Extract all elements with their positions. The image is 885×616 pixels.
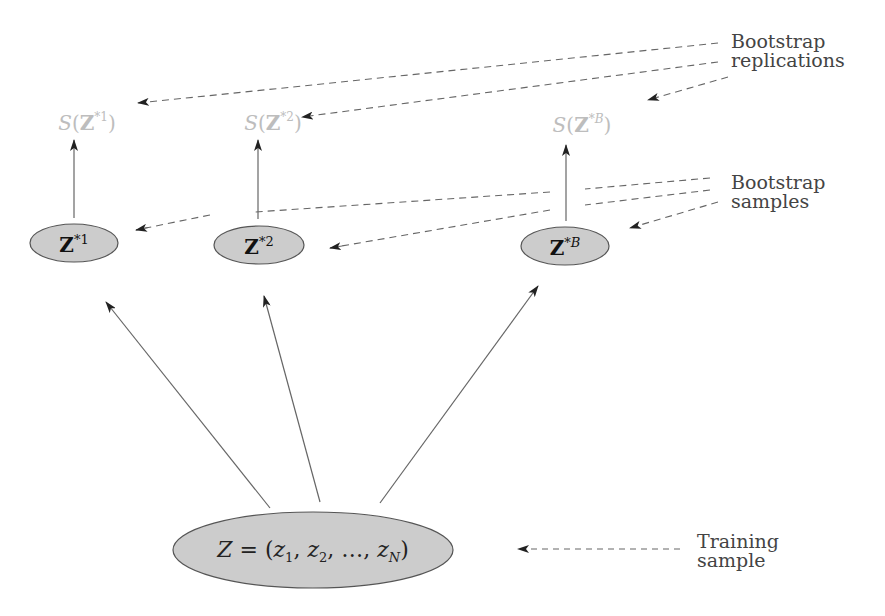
sample-label-B: Z*B	[550, 235, 581, 260]
dashed-sample-2-head	[330, 246, 342, 248]
statistic-2: S(Z*2)	[244, 110, 302, 135]
arrow-train-to-sample-1	[106, 302, 270, 508]
dashed-sample-1	[136, 178, 710, 230]
stat-index: B	[595, 112, 604, 126]
training-lhs: Z	[217, 537, 232, 562]
sample-index: 2	[265, 234, 273, 249]
stat-var: Z	[266, 111, 281, 135]
training-comma: ,	[327, 537, 341, 562]
dashed-sample-1-head	[136, 228, 148, 231]
label-line: sample	[697, 551, 779, 570]
dashed-replication-2	[302, 62, 718, 117]
sample-var: Z	[59, 233, 74, 257]
dashed-sample-2	[330, 190, 710, 248]
training-subN: N	[389, 550, 400, 565]
stat-superscript: *2	[280, 110, 294, 124]
label-training-sample: Training sample	[697, 532, 779, 570]
sample-index: 1	[80, 232, 88, 247]
training-sample-formula: Z = (z1, z2, …, zN)	[217, 537, 409, 565]
sample-superscript: *B	[564, 235, 580, 250]
training-ellipsis: …	[341, 537, 363, 562]
training-sub1: 1	[285, 550, 293, 565]
training-z2: z	[307, 537, 319, 562]
arrow-train-to-sample-B	[380, 286, 538, 503]
sample-superscript: *1	[74, 232, 89, 247]
statistic-1: S(Z*1)	[58, 110, 116, 135]
training-zN: z	[377, 537, 389, 562]
stat-superscript: *B	[589, 112, 604, 126]
training-eq: = (	[232, 537, 273, 562]
diagram-canvas	[0, 0, 885, 616]
training-comma: ,	[293, 537, 307, 562]
sample-label-2: Z*2	[244, 234, 273, 259]
sample-var: Z	[550, 236, 565, 260]
dashed-sample-B	[630, 202, 718, 228]
training-comma: ,	[363, 537, 377, 562]
stat-index: 2	[286, 110, 294, 124]
stat-superscript: *1	[94, 110, 108, 124]
training-sub2: 2	[319, 550, 327, 565]
training-z1: z	[274, 537, 286, 562]
training-close: )	[400, 537, 409, 562]
label-bootstrap-replications: Bootstrap replications	[731, 32, 845, 70]
sample-index: B	[571, 235, 581, 250]
label-line: replications	[731, 51, 845, 70]
sample-label-1: Z*1	[59, 232, 88, 257]
label-bootstrap-samples: Bootstrap samples	[731, 173, 825, 211]
stat-index: 1	[100, 110, 108, 124]
sample-superscript: *2	[259, 234, 274, 249]
stat-func: S	[244, 111, 258, 135]
label-line: samples	[731, 192, 825, 211]
dashed-replication-B	[648, 77, 728, 100]
stat-var: Z	[80, 111, 95, 135]
arrow-train-to-sample-2	[264, 296, 320, 502]
stat-func: S	[58, 111, 72, 135]
stat-var: Z	[574, 113, 589, 137]
stat-func: S	[553, 113, 567, 137]
statistic-B: S(Z*B)	[553, 112, 612, 137]
sample-var: Z	[244, 235, 259, 259]
